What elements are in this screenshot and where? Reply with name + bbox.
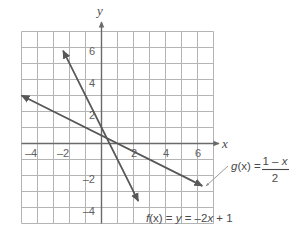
g-equation-equals: = [251, 160, 261, 172]
y-tick-label-4: 4 [89, 77, 95, 89]
x-axis-label: x [221, 136, 228, 151]
x-tick-label-4: 4 [163, 147, 169, 159]
graph-figure: x y –4 –2 2 4 6 6 4 2 –2 –4 f(x) = y = –… [0, 0, 303, 239]
g-equation-denominator: 2 [272, 172, 278, 184]
x-tick-label--4: –4 [25, 147, 37, 159]
y-tick-label-6: 6 [89, 45, 95, 57]
y-axis-label: y [95, 3, 103, 18]
figure-background [0, 0, 303, 239]
g-equation-arg: (x) [237, 160, 251, 172]
y-tick-label--4: –4 [83, 205, 95, 217]
g-equation-head: g(x) = [231, 160, 261, 172]
x-tick-label-6: 6 [195, 147, 201, 159]
x-tick-label--2: –2 [57, 147, 69, 159]
f-equation-eq2: = –2 [181, 212, 207, 224]
y-tick-label--2: –2 [83, 173, 95, 185]
g-numerator-a: 1 – [263, 155, 282, 167]
coordinate-plane-svg: x y –4 –2 2 4 6 6 4 2 –2 –4 f(x) = y = –… [0, 0, 303, 239]
f-equation-arg: (x) [149, 212, 163, 224]
f-equation-tail: + 1 [213, 212, 233, 224]
g-equation-numerator: 1 – x [263, 155, 289, 167]
f-equation-eq1: = [163, 212, 176, 224]
f-equation-label: f(x) = y = –2x + 1 [146, 212, 233, 224]
